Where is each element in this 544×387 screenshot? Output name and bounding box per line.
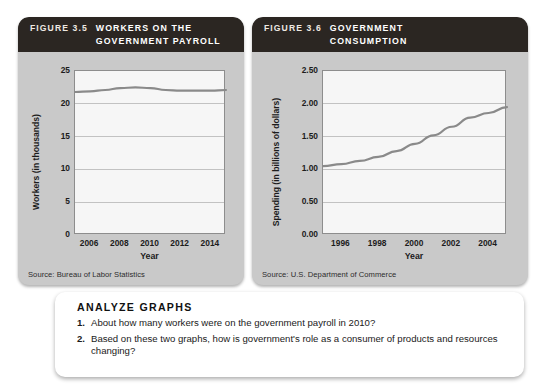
y-tick-label: 20	[26, 98, 70, 108]
y-tick-label: 25	[26, 65, 70, 75]
question-number: 2.	[77, 333, 91, 358]
y-tick-label: 1.50	[274, 131, 318, 141]
y-tick-label: 10	[26, 163, 70, 173]
question-number: 1.	[77, 317, 91, 330]
figure-banner-3-5: FIGURE 3.5 WORKERS ON THE GOVERNMENT PAY…	[18, 17, 244, 52]
figure-source-3-6: Source: U.S. Department of Commerce	[262, 270, 396, 279]
chart-area-3-6: Spending (in billions of dollars) 0.000.…	[252, 52, 528, 285]
figure-banner-3-6: FIGURE 3.6 GOVERNMENT CONSUMPTION	[252, 17, 528, 52]
y-tick-label: 0	[26, 229, 70, 239]
analyze-question: 1.About how many workers were on the gov…	[77, 317, 508, 330]
x-tick-label: 2004	[470, 238, 506, 248]
question-text: About how many workers were on the gover…	[91, 317, 508, 330]
x-tick-label: 1996	[322, 238, 358, 248]
y-tick-label: 0.00	[274, 229, 318, 239]
chart-area-3-5: Workers (in thousands) 0510152025 200620…	[18, 52, 244, 285]
x-axis-label-3-5: Year	[74, 251, 225, 261]
analyze-graphs-card: ANALYZE GRAPHS 1.About how many workers …	[55, 292, 524, 377]
analyze-question: 2.Based on these two graphs, how is gove…	[77, 333, 508, 358]
plot-area-3-5	[74, 70, 225, 234]
y-tick-label: 0.50	[274, 196, 318, 206]
figure-title-3-6: GOVERNMENT CONSUMPTION	[330, 22, 408, 47]
x-axis-label-3-6: Year	[322, 251, 506, 261]
figure-number-3-5: FIGURE 3.5	[30, 22, 96, 33]
y-tick-label: 2.50	[274, 65, 318, 75]
y-tick-label: 5	[26, 196, 70, 206]
y-tick-label: 2.00	[274, 98, 318, 108]
data-series-line	[75, 71, 226, 235]
analyze-graphs-title: ANALYZE GRAPHS	[77, 301, 508, 313]
analyze-questions-list: 1.About how many workers were on the gov…	[77, 317, 508, 358]
figure-panel-3-6: FIGURE 3.6 GOVERNMENT CONSUMPTION Spendi…	[252, 17, 528, 285]
y-tick-label: 1.00	[274, 163, 318, 173]
textbook-figure-page: FIGURE 3.5 WORKERS ON THE GOVERNMENT PAY…	[0, 0, 544, 387]
x-tick-label: 2002	[433, 238, 469, 248]
figure-panel-3-5: FIGURE 3.5 WORKERS ON THE GOVERNMENT PAY…	[18, 17, 244, 285]
y-tick-label: 15	[26, 131, 70, 141]
plot-area-3-6	[322, 70, 506, 234]
figure-number-3-6: FIGURE 3.6	[264, 22, 330, 33]
x-tick-label: 2000	[396, 238, 432, 248]
figure-source-3-5: Source: Bureau of Labor Statistics	[28, 270, 145, 279]
y-axis-label-3-5: Workers (in thousands)	[31, 97, 41, 227]
x-tick-label: 2014	[192, 238, 228, 248]
data-series-line	[323, 71, 507, 235]
x-tick-label: 1998	[359, 238, 395, 248]
figure-title-3-5: WORKERS ON THE GOVERNMENT PAYROLL	[96, 22, 221, 47]
question-text: Based on these two graphs, how is govern…	[91, 333, 508, 358]
